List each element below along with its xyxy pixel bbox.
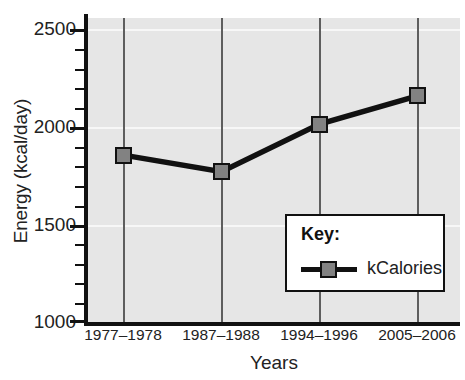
y-tick-label-1500: 1500: [14, 215, 76, 234]
plot-area: Key: kCalories: [88, 18, 460, 322]
chart-figure: Energy (kcal/day) 2500 2000 1500 1000: [0, 0, 465, 380]
y-tick-label-2500: 2500: [14, 19, 76, 38]
legend-entry-label: kCalories: [367, 258, 442, 279]
data-point-marker: [409, 87, 426, 104]
x-tick-label-3: 2005–2006: [347, 326, 465, 344]
legend-title: Key:: [301, 224, 340, 245]
y-axis-title: Energy (kcal/day): [10, 46, 32, 296]
y-tick-label-2000: 2000: [14, 117, 76, 136]
series-polyline: [124, 96, 418, 172]
data-point-marker: [213, 163, 230, 180]
legend-marker-icon: [301, 260, 357, 278]
legend-entry-kcalories: kCalories: [301, 258, 442, 279]
legend-square-marker-icon: [320, 261, 337, 278]
data-point-marker: [115, 147, 132, 164]
y-axis-line: [84, 14, 88, 326]
data-point-marker: [311, 116, 328, 133]
legend-box: Key: kCalories: [285, 214, 445, 292]
x-axis-title: Years: [88, 352, 460, 374]
